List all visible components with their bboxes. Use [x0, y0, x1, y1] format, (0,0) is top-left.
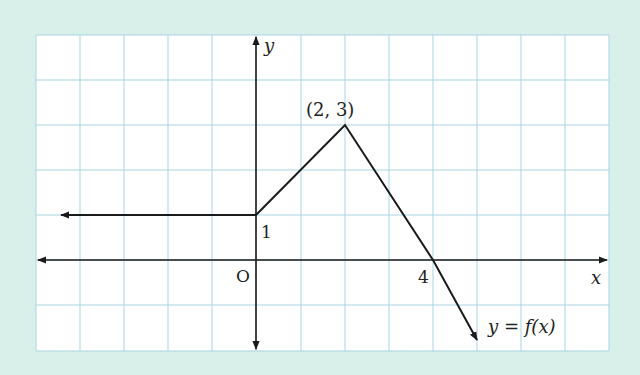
x-intercept-label: 4 — [418, 267, 429, 287]
vertex-label: (2, 3) — [306, 99, 354, 120]
x-axis-label: x — [591, 267, 601, 288]
origin-label: O — [236, 266, 250, 286]
function-label: y = f(x) — [487, 316, 556, 337]
y-axis-label: y — [263, 35, 275, 56]
y-intercept-label: 1 — [261, 222, 272, 242]
function-graph: y x O 1 4 (2, 3) y = f(x) — [0, 0, 640, 375]
grid-paper — [36, 35, 609, 351]
